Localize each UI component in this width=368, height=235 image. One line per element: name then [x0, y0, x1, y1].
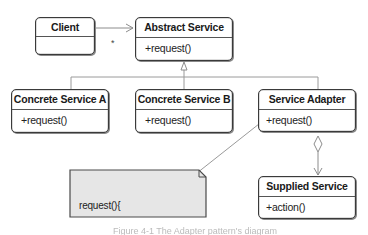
class-operation: +request()	[136, 38, 232, 58]
class-concrete-service-b[interactable]: Concrete Service B +request()	[135, 89, 233, 133]
class-supplied-service[interactable]: Supplied Service +action()	[258, 176, 356, 219]
class-operation: +request()	[259, 110, 355, 130]
note-line: request(){	[79, 200, 206, 212]
figure-caption: Figure 4-1 The Adapter pattern's diagram	[100, 226, 290, 235]
class-operation: +request()	[12, 110, 108, 130]
class-client[interactable]: Client	[35, 17, 95, 55]
class-name: Supplied Service	[259, 177, 355, 197]
class-name: Concrete Service B	[136, 90, 232, 110]
class-operation: +request()	[136, 110, 232, 130]
class-name: Client	[36, 18, 94, 37]
class-service-adapter[interactable]: Service Adapter +request()	[258, 89, 356, 132]
class-operations-empty	[36, 37, 94, 53]
class-name: Service Adapter	[259, 90, 355, 110]
association-multiplicity: *	[111, 38, 115, 48]
class-concrete-service-a[interactable]: Concrete Service A +request()	[11, 89, 109, 133]
code-note: request(){ mySuppliedService.action(); }	[70, 170, 206, 217]
class-abstract-service[interactable]: Abstract Service +request()	[135, 17, 233, 61]
class-operation: +action()	[259, 197, 355, 217]
class-name: Abstract Service	[136, 18, 232, 38]
class-name: Concrete Service A	[12, 90, 108, 110]
